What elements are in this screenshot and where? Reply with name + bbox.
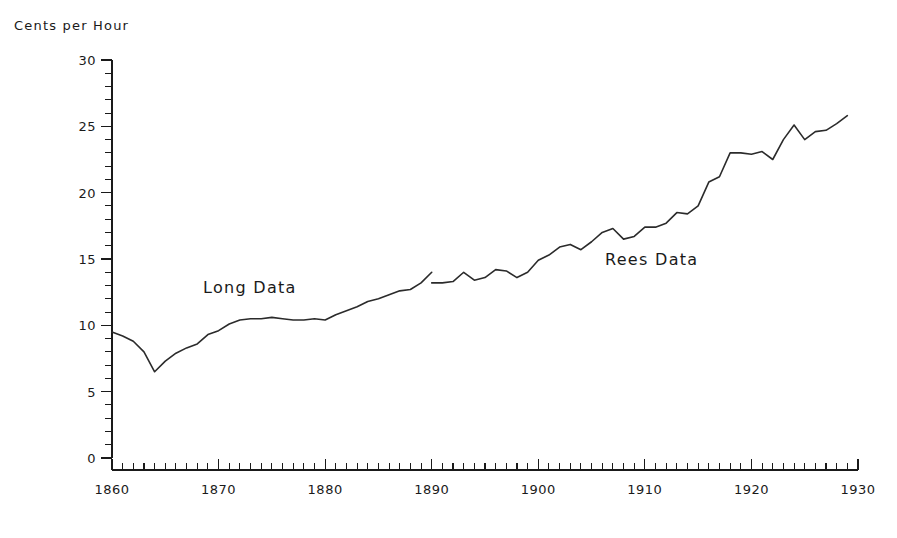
svg-text:20: 20 — [78, 186, 96, 201]
svg-text:1910: 1910 — [627, 482, 662, 497]
svg-text:1870: 1870 — [201, 482, 236, 497]
svg-text:25: 25 — [78, 119, 96, 134]
series-line-rees-data — [432, 116, 848, 283]
svg-text:30: 30 — [78, 53, 96, 68]
svg-text:5: 5 — [87, 385, 96, 400]
x-axis: 18601870188018901900191019201930 — [94, 459, 875, 497]
series-line-long-data — [112, 272, 432, 372]
svg-text:1880: 1880 — [308, 482, 343, 497]
svg-text:15: 15 — [78, 252, 96, 267]
y-axis: 051015202530 — [78, 53, 112, 466]
svg-text:1920: 1920 — [734, 482, 769, 497]
svg-text:1890: 1890 — [414, 482, 449, 497]
svg-text:1930: 1930 — [840, 482, 875, 497]
line-chart-plot: 051015202530 186018701880189019001910192… — [0, 0, 897, 538]
svg-text:1860: 1860 — [94, 482, 129, 497]
svg-text:0: 0 — [87, 451, 96, 466]
data-series-group — [112, 116, 847, 372]
svg-text:10: 10 — [78, 318, 96, 333]
svg-text:1900: 1900 — [521, 482, 556, 497]
chart-container: Cents per Hour Long Data Rees Data 05101… — [0, 0, 897, 538]
